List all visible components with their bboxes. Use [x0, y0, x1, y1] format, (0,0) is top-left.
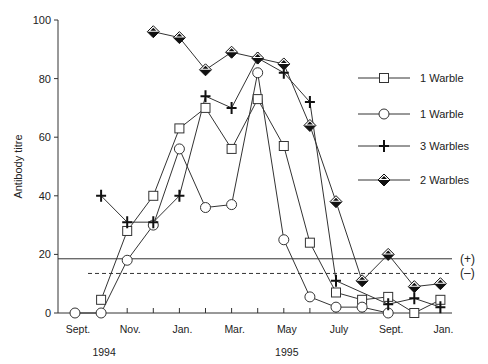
data-point-square-icon: [253, 95, 262, 104]
data-point-square-icon: [305, 238, 314, 247]
data-point-square-icon: [227, 144, 236, 153]
data-point-circle-icon: [70, 308, 80, 318]
data-point-plus-icon: [409, 292, 419, 304]
data-point-circle-icon: [305, 292, 315, 302]
data-point-plus-icon: [227, 102, 237, 114]
y-tick-label: 20: [39, 248, 51, 260]
data-point-circle-icon: [122, 255, 132, 265]
data-point-diamond-icon-fill: [200, 70, 212, 76]
chart-canvas: 020406080100Sept.Nov.Jan.Mar.MayJulySept…: [0, 0, 488, 364]
data-point-square-icon: [149, 191, 158, 200]
data-point-square-icon: [97, 295, 106, 304]
series-line-diamond: [153, 32, 440, 287]
data-point-diamond-icon-fill: [434, 284, 446, 290]
legend-label: 3 Warbles: [420, 140, 470, 152]
year-label: 1994: [92, 346, 116, 358]
x-tick-label: Nov.: [120, 323, 141, 335]
antibody-titre-chart: 020406080100Sept.Nov.Jan.Mar.MayJulySept…: [0, 0, 488, 364]
x-tick-label: Jan.: [433, 323, 453, 335]
legend-circle-icon: [379, 109, 389, 119]
data-point-circle-icon: [331, 302, 341, 312]
legend-diamond-icon-fill: [378, 180, 390, 186]
data-point-square-icon: [332, 288, 341, 297]
data-point-plus-icon: [201, 90, 211, 102]
data-point-circle-icon: [279, 235, 289, 245]
x-tick-label: July: [330, 323, 349, 335]
data-point-circle-icon: [357, 302, 367, 312]
legend-square-icon: [380, 74, 389, 83]
series-line-plus: [101, 58, 440, 307]
x-tick-label: Mar.: [224, 323, 244, 335]
data-point-diamond-icon-fill: [278, 64, 290, 70]
data-point-diamond-icon-fill: [408, 287, 420, 293]
legend-label: 1 Warble: [420, 72, 464, 84]
data-point-diamond-icon-fill: [356, 281, 368, 287]
data-point-square-icon: [410, 309, 419, 318]
series-line-square: [101, 99, 440, 313]
data-point-circle-icon: [174, 144, 184, 154]
data-point-square-icon: [175, 124, 184, 133]
y-tick-label: 0: [45, 307, 51, 319]
legend-label: 2 Warbles: [420, 174, 470, 186]
y-tick-label: 60: [39, 131, 51, 143]
x-tick-label: Sept.: [66, 323, 91, 335]
x-tick-label: Jan.: [172, 323, 192, 335]
y-axis-label: Antibody titre: [12, 134, 24, 198]
reference-label: (–): [460, 266, 475, 280]
y-tick-label: 80: [39, 73, 51, 85]
data-point-diamond-icon-fill: [147, 32, 159, 38]
data-point-circle-icon: [227, 200, 237, 210]
data-point-circle-icon: [96, 308, 106, 318]
x-tick-label: May: [277, 323, 298, 335]
year-label: 1995: [275, 346, 299, 358]
data-point-diamond-icon-fill: [330, 202, 342, 208]
x-tick-label: Sept.: [379, 323, 404, 335]
reference-label: (+): [460, 252, 475, 266]
legend-plus-icon: [379, 140, 389, 152]
y-tick-label: 100: [33, 14, 51, 26]
data-point-circle-icon: [253, 68, 263, 78]
y-tick-label: 40: [39, 190, 51, 202]
data-point-diamond-icon-fill: [252, 58, 264, 64]
data-point-square-icon: [279, 141, 288, 150]
data-point-circle-icon: [201, 203, 211, 213]
legend-label: 1 Warble: [420, 108, 464, 120]
data-point-square-icon: [201, 103, 210, 112]
